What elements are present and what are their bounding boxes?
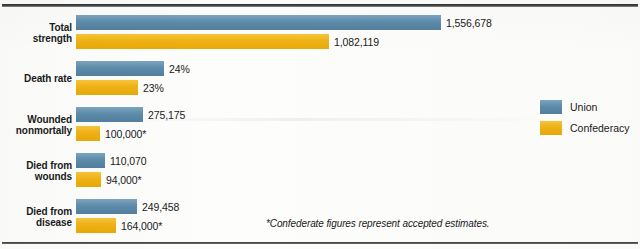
bar-value-confederacy: 100,000* xyxy=(100,128,146,140)
bar-union xyxy=(76,107,143,122)
bar-row-union: 110,070 xyxy=(76,153,146,168)
bar-value-union: 249,458 xyxy=(137,201,179,213)
bars-container: 110,070 94,000* xyxy=(76,151,640,191)
category-label-death-rate: Death rate xyxy=(0,73,76,85)
bar-row-confederacy: 94,000* xyxy=(76,172,142,187)
bar-row-confederacy: 23% xyxy=(76,80,164,95)
category-label-line2: nonmortally xyxy=(16,125,72,136)
bar-row-confederacy: 164,000* xyxy=(76,218,162,233)
bar-value-confederacy: 23% xyxy=(138,82,164,94)
bar-union xyxy=(76,61,164,76)
category-label-line1: Wounded xyxy=(27,114,72,125)
bar-value-union: 24% xyxy=(164,63,190,75)
bar-value-confederacy: 164,000* xyxy=(116,220,162,232)
legend-swatch-union xyxy=(540,100,562,114)
civil-war-casualties-chart: Total strength 1,556,678 1,082,119 Death… xyxy=(0,0,640,249)
category-label-line1: Died from xyxy=(26,160,72,171)
bar-confederacy xyxy=(76,80,138,95)
bar-value-confederacy: 94,000* xyxy=(101,174,142,186)
bottom-divider-rule xyxy=(2,242,638,244)
bar-group-death-rate: Death rate 24% 23% xyxy=(0,56,640,102)
category-label-died-from-disease: Died from disease xyxy=(0,206,76,229)
category-label-died-from-wounds: Died from wounds xyxy=(0,160,76,183)
bar-row-union: 1,556,678 xyxy=(76,15,492,30)
legend-item-confederacy: Confederacy xyxy=(540,121,630,135)
chart-footnote: *Confederate figures represent accepted … xyxy=(266,218,489,229)
bar-value-confederacy: 1,082,119 xyxy=(329,36,379,48)
bar-group-died-from-disease: Died from disease 249,458 164,000* xyxy=(0,194,640,240)
bar-union xyxy=(76,153,105,168)
bars-container: 1,556,678 1,082,119 xyxy=(76,13,640,53)
category-label-line2: strength xyxy=(33,33,72,44)
legend-label-confederacy: Confederacy xyxy=(562,122,630,134)
bar-row-confederacy: 100,000* xyxy=(76,126,146,141)
category-label-line1: Death rate xyxy=(24,73,72,84)
chart-legend: Union Confederacy xyxy=(540,100,630,142)
category-label-line1: Total xyxy=(49,22,72,33)
bar-row-union: 275,175 xyxy=(76,107,185,122)
bar-confederacy xyxy=(76,218,116,233)
legend-label-union: Union xyxy=(562,101,597,113)
category-label-line1: Died from xyxy=(26,206,72,217)
bars-container: 249,458 164,000* xyxy=(76,197,640,237)
legend-item-union: Union xyxy=(540,100,630,114)
bar-value-union: 275,175 xyxy=(143,109,185,121)
bar-union xyxy=(76,199,137,214)
bar-row-union: 249,458 xyxy=(76,199,179,214)
bar-value-union: 110,070 xyxy=(105,155,146,167)
bar-union xyxy=(76,15,441,30)
category-label-total-strength: Total strength xyxy=(0,22,76,45)
category-label-line2: disease xyxy=(36,217,72,228)
top-divider-rule xyxy=(2,4,638,7)
category-label-line2: wounds xyxy=(35,171,72,182)
bar-group-died-from-wounds: Died from wounds 110,070 94,000* xyxy=(0,148,640,194)
category-label-wounded-nonmortally: Wounded nonmortally xyxy=(0,114,76,137)
legend-swatch-confederacy xyxy=(540,121,562,135)
bar-row-union: 24% xyxy=(76,61,190,76)
bar-confederacy xyxy=(76,34,329,49)
bar-confederacy xyxy=(76,126,100,141)
bar-row-confederacy: 1,082,119 xyxy=(76,34,379,49)
bars-container: 24% 23% xyxy=(76,59,640,99)
bar-value-union: 1,556,678 xyxy=(441,17,492,29)
bar-confederacy xyxy=(76,172,101,187)
bar-group-total-strength: Total strength 1,556,678 1,082,119 xyxy=(0,10,640,56)
